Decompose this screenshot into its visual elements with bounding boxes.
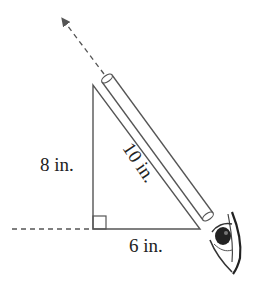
label-hypotenuse: 10 in. <box>119 138 161 186</box>
sighting-tube <box>100 72 215 222</box>
label-vertical-side: 8 in. <box>40 154 74 175</box>
eye-icon <box>210 212 240 274</box>
right-angle-marker <box>93 216 106 229</box>
line-of-sight-dashed-arrow <box>64 21 104 74</box>
diagram-canvas: 8 in. 10 in. 6 in. <box>0 0 263 288</box>
label-base: 6 in. <box>129 235 163 256</box>
